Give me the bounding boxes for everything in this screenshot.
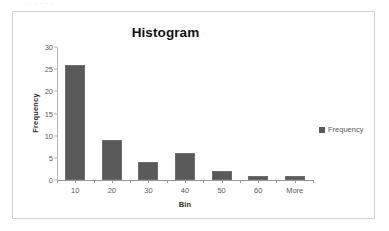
chart-frame[interactable]: Histogram Frequency 051015202530 Bin Fre…	[12, 11, 375, 219]
x-axis-separator-mark	[130, 180, 131, 183]
x-axis-separator-mark	[167, 180, 168, 183]
x-axis-tick-label: 60	[254, 186, 262, 195]
y-axis-tick-label: 10	[45, 131, 53, 140]
x-axis-separator-mark	[276, 180, 277, 183]
x-axis-separator-mark	[94, 180, 95, 183]
bar-30[interactable]	[138, 162, 158, 180]
y-axis-tick-label: 15	[45, 109, 53, 118]
bar-20[interactable]	[102, 140, 122, 180]
clipped-text-row: · · · · ·	[0, 0, 389, 9]
x-axis-tick-mark	[222, 180, 223, 183]
x-axis-tick-label: 10	[71, 186, 79, 195]
y-axis-title: Frequency	[31, 93, 40, 133]
bar-50[interactable]	[212, 171, 232, 180]
bar-slot	[57, 47, 94, 180]
bar-slot	[276, 47, 313, 180]
x-axis-tick-mark	[75, 180, 76, 183]
x-axis-tick-mark	[148, 180, 149, 183]
bar-slot	[203, 47, 240, 180]
x-axis-tick-mark	[112, 180, 113, 183]
legend-swatch-frequency	[319, 127, 325, 133]
y-axis-tick-label: 25	[45, 65, 53, 74]
chart-legend[interactable]: Frequency	[319, 125, 363, 134]
x-axis-tick-mark	[185, 180, 186, 183]
x-axis-tick-label: 40	[181, 186, 189, 195]
plot-area: 051015202530	[57, 47, 313, 180]
chart-title-text: Histogram	[132, 25, 200, 40]
x-axis-separator-mark	[313, 180, 314, 183]
x-axis-tick-label: 20	[108, 186, 116, 195]
bar-slot	[130, 47, 167, 180]
bar-10[interactable]	[65, 65, 85, 180]
x-axis-tick-label: 30	[144, 186, 152, 195]
bar-slot	[167, 47, 204, 180]
x-axis-tick-mark	[295, 180, 296, 183]
y-axis-tick-label: 30	[45, 43, 53, 52]
y-axis-tick-label: 20	[45, 87, 53, 96]
x-axis-tick-label: More	[286, 186, 303, 195]
chart-title: Histogram	[13, 25, 374, 40]
x-axis-tick-label: 50	[217, 186, 225, 195]
bar-slot	[240, 47, 277, 180]
x-axis-title: Bin	[179, 200, 192, 209]
x-axis-separator-mark	[203, 180, 204, 183]
x-axis-tick-mark	[258, 180, 259, 183]
y-axis-tick-label: 0	[49, 176, 53, 185]
x-axis-separator-mark	[240, 180, 241, 183]
x-axis-separator-mark	[57, 180, 58, 183]
legend-label-frequency: Frequency	[328, 125, 363, 134]
bar-40[interactable]	[175, 153, 195, 180]
y-axis-tick-label: 5	[49, 153, 53, 162]
bar-slot	[94, 47, 131, 180]
